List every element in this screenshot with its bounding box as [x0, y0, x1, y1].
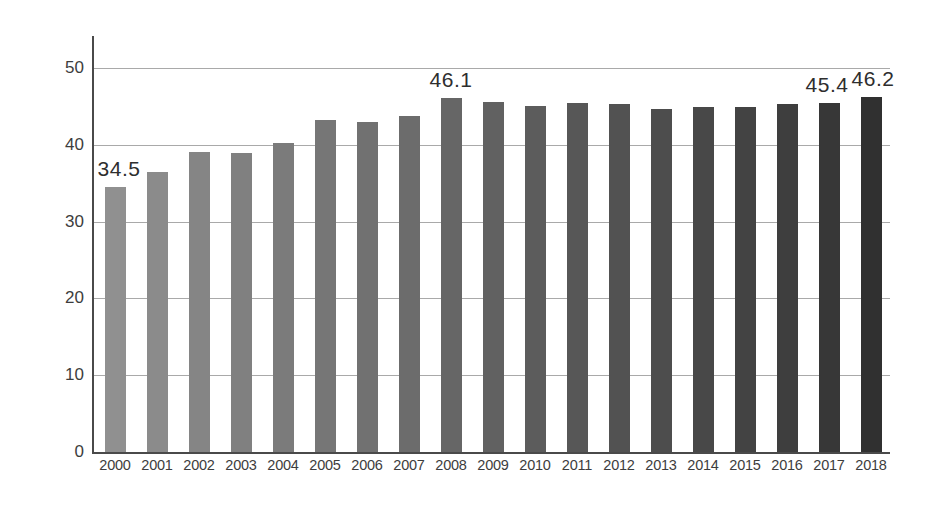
x-axis-tick-2001: 2001 [136, 457, 178, 473]
bar-2007 [399, 116, 420, 452]
bar-value-label-2008: 46.1 [426, 68, 476, 92]
bar-2018 [861, 97, 882, 452]
x-axis-tick-2014: 2014 [682, 457, 724, 473]
bar-2014 [693, 107, 714, 452]
x-axis-tick-2018: 2018 [850, 457, 892, 473]
x-axis-tick-2011: 2011 [556, 457, 598, 473]
y-axis-tick-label: 20 [65, 288, 84, 308]
x-axis-tick-2008: 2008 [430, 457, 472, 473]
x-axis-tick-2000: 2000 [94, 457, 136, 473]
y-axis-tick-label: 10 [65, 365, 84, 385]
x-axis-tick-2010: 2010 [514, 457, 556, 473]
bar-2012 [609, 104, 630, 452]
x-axis-tick-2015: 2015 [724, 457, 766, 473]
x-axis-tick-2006: 2006 [346, 457, 388, 473]
x-axis-tick-2002: 2002 [178, 457, 220, 473]
bar-2002 [189, 152, 210, 452]
bar-2004 [273, 143, 294, 453]
bar-2011 [567, 103, 588, 452]
bar-2017 [819, 103, 840, 452]
y-axis-tick-label: 50 [65, 58, 84, 78]
x-axis-tick-labels: 2000200120022003200420052006200720082009… [92, 457, 890, 483]
x-axis-tick-2004: 2004 [262, 457, 304, 473]
bar-2006 [357, 122, 378, 452]
bar-2010 [525, 106, 546, 452]
bar-2001 [147, 172, 168, 452]
y-axis-tick-label: 0 [75, 442, 84, 462]
x-axis-tick-2007: 2007 [388, 457, 430, 473]
x-axis-tick-2005: 2005 [304, 457, 346, 473]
bars-layer: 34.546.145.446.2 [92, 30, 890, 452]
bar-2016 [777, 104, 798, 452]
bar-value-label-2017: 45.4 [802, 73, 852, 97]
x-axis-tick-2009: 2009 [472, 457, 514, 473]
x-axis-tick-2017: 2017 [808, 457, 850, 473]
bar-chart: 01020304050 34.546.145.446.2 20002001200… [0, 0, 938, 509]
bar-2005 [315, 120, 336, 452]
bar-2009 [483, 102, 504, 452]
x-axis-tick-2003: 2003 [220, 457, 262, 473]
bar-2003 [231, 153, 252, 452]
x-axis-tick-2016: 2016 [766, 457, 808, 473]
x-axis-line [92, 452, 890, 454]
y-axis-tick-label: 40 [65, 135, 84, 155]
bar-2013 [651, 109, 672, 452]
bar-2008 [441, 98, 462, 452]
x-axis-tick-2012: 2012 [598, 457, 640, 473]
bar-2000 [105, 187, 126, 452]
y-axis-tick-label: 30 [65, 212, 84, 232]
bar-2015 [735, 107, 756, 452]
bar-value-label-2018: 46.2 [848, 67, 898, 91]
x-axis-tick-2013: 2013 [640, 457, 682, 473]
bar-value-label-2000: 34.5 [94, 157, 144, 181]
